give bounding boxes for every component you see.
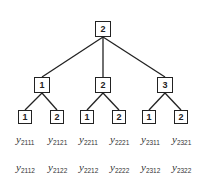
leaf-label: y2321 <box>172 133 191 146</box>
level1-node-2: 2 <box>95 77 111 93</box>
leaf-label: y2312 <box>141 161 160 174</box>
leaf-label: y2111 <box>16 133 34 146</box>
leaf-label: y2322 <box>172 161 191 174</box>
leaf-label: y2221 <box>110 133 129 146</box>
leaf-label: y2112 <box>16 161 35 174</box>
leaf-label: y2222 <box>110 161 129 174</box>
level1-node-3: 3 <box>157 77 173 93</box>
level2-node-3-1: 1 <box>142 110 156 124</box>
leaf-label: y2311 <box>141 133 160 146</box>
level2-node-1-1: 1 <box>18 110 32 124</box>
level2-node-3-2: 2 <box>174 110 188 124</box>
leaf-label: y2121 <box>48 133 67 146</box>
level2-node-2-2: 2 <box>112 110 126 124</box>
leaf-label: y2211 <box>79 133 98 146</box>
leaf-label: y2212 <box>79 161 98 174</box>
level2-node-1-2: 2 <box>50 110 64 124</box>
leaf-label: y2122 <box>48 161 67 174</box>
root-node: 2 <box>95 21 111 37</box>
level2-node-2-1: 1 <box>80 110 94 124</box>
tree-diagram: 2 1 2 3 1 2 1 2 1 2 y2111 y2121 y2211 y2… <box>0 0 200 182</box>
level1-node-1: 1 <box>34 77 50 93</box>
